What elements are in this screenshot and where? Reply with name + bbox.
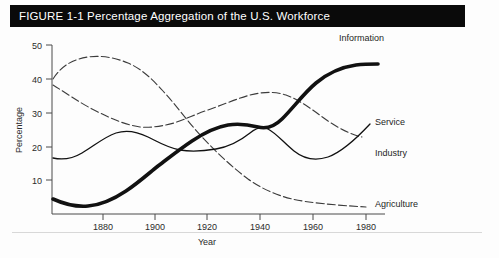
series-label-industry: Industry	[375, 148, 408, 158]
series-label-agriculture: Agriculture	[375, 199, 418, 209]
x-tick-label-1900: 1900	[145, 222, 165, 232]
y-tick-label-30: 30	[32, 109, 42, 119]
x-tick-label-1960: 1960	[303, 222, 323, 232]
figure-title-bar: FIGURE 1-1 Percentage Aggregation of the…	[10, 5, 465, 27]
figure-container: FIGURE 1-1 Percentage Aggregation of the…	[0, 0, 499, 258]
y-tick-label-20: 20	[32, 143, 42, 153]
x-axis-title: Year	[198, 237, 216, 247]
series-label-information: Information	[339, 33, 384, 43]
series-line-information	[53, 64, 378, 206]
x-tick-label-1980: 1980	[356, 222, 376, 232]
series-line-service	[53, 85, 362, 137]
y-tick-label-40: 40	[32, 75, 42, 85]
chart-plot-area: 50 40 30 20 10 1880 1900 1920 1940 1960 …	[0, 27, 499, 258]
series-label-service: Service	[375, 117, 405, 127]
y-tick-label-50: 50	[32, 41, 42, 51]
x-tick-label-1880: 1880	[93, 222, 113, 232]
x-tick-label-1920: 1920	[197, 222, 217, 232]
x-tick-label-1940: 1940	[250, 222, 270, 232]
figure-bottom-rule	[12, 232, 482, 233]
figure-title: FIGURE 1-1 Percentage Aggregation of the…	[19, 10, 330, 22]
y-axis-title: Percentage	[14, 107, 24, 153]
y-tick-label-10: 10	[32, 176, 42, 186]
